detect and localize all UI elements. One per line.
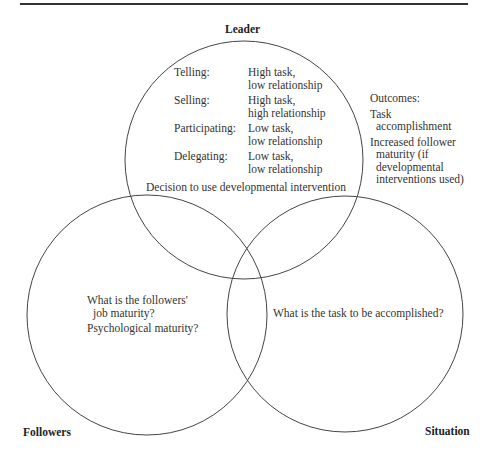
question-line: job maturity? [87,307,198,320]
outcome-line: maturity (if [370,148,464,161]
question-line: Psychological maturity? [87,322,198,335]
style-desc: Low task, low relationship [248,122,322,147]
outcome-line: developmental [370,161,464,174]
situation-label: Situation [425,425,470,438]
leader-label: Leader [225,23,260,36]
style-name: Selling: [174,94,210,107]
outcome-item-1: Task accomplishment [370,108,464,133]
outcome-item-2: Increased follower maturity (if developm… [370,136,464,186]
style-desc: High task, low relationship [248,66,322,91]
decision-text: Decision to use developmental interventi… [146,181,346,194]
outcome-line: accomplishment [370,120,464,133]
style-name: Participating: [174,122,236,135]
situation-question: What is the task to be accomplished? [273,307,444,320]
outcome-line: Task [370,108,464,121]
outcomes-title: Outcomes: [370,92,464,105]
desc-line: high relationship [248,107,326,119]
followers-label: Followers [23,426,71,439]
desc-line: Low task, [248,150,293,162]
outcomes-block: Outcomes: Task accomplishment Increased … [370,92,464,186]
desc-line: low relationship [248,163,322,175]
desc-line: High task, [248,66,295,78]
style-selling: Selling: High task, high relationship [174,94,354,120]
style-participating: Participating: Low task, low relationshi… [174,122,354,148]
followers-questions: What is the followers' job maturity? Psy… [87,294,198,335]
outcome-line: Increased follower [370,136,464,149]
style-desc: High task, high relationship [248,94,326,119]
desc-line: Low task, [248,122,293,134]
desc-line: High task, [248,94,295,106]
desc-line: low relationship [248,135,322,147]
style-name: Telling: [174,66,210,79]
style-telling: Telling: High task, low relationship [174,66,354,92]
style-delegating: Delegating: Low task, low relationship [174,150,354,176]
desc-line: low relationship [248,79,322,91]
question-line: What is the followers' [87,294,198,307]
style-name: Delegating: [174,150,228,163]
outcome-line: interventions used) [370,173,464,186]
style-desc: Low task, low relationship [248,150,322,175]
